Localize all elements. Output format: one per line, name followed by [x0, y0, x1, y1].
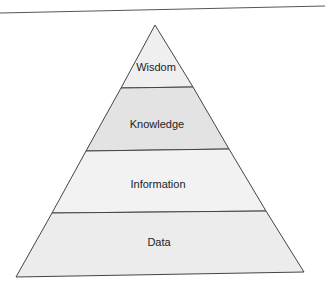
label-wisdom: Wisdom [136, 61, 176, 73]
label-knowledge: Knowledge [130, 118, 184, 130]
dikw-pyramid-diagram: Wisdom Knowledge Information Data [0, 0, 325, 288]
label-data: Data [147, 236, 170, 248]
label-information: Information [130, 178, 185, 190]
top-rule-line [0, 6, 325, 13]
level-wisdom [121, 25, 193, 88]
